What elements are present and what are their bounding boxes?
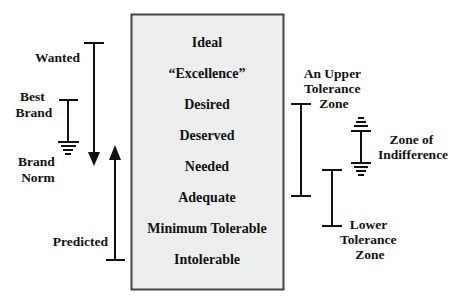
ground-symbol-icon: [58, 142, 79, 154]
down-arrow-icon: [88, 152, 100, 166]
wanted-label: Wanted: [35, 50, 81, 65]
up-arrow-icon: [109, 145, 121, 160]
predicted-label: Predicted: [53, 234, 109, 249]
level-needed: Needed: [185, 159, 230, 174]
indifference-marker: [351, 118, 371, 175]
best-brand-label: Best Brand: [16, 89, 53, 120]
brand-norm-label: Brand Norm: [18, 154, 58, 185]
upper-tolerance-marker: [291, 104, 311, 196]
inverted-ground-symbol-icon: [351, 118, 371, 131]
level-minimum-tolerable: Minimum Tolerable: [147, 221, 266, 236]
level-excellence: “Excellence”: [169, 66, 246, 81]
wanted-marker: [84, 43, 104, 166]
upper-tolerance-label: An Upper Tolerance Zone: [304, 66, 365, 111]
level-desired: Desired: [184, 97, 230, 112]
lower-tolerance-marker: [322, 170, 342, 226]
ground-symbol-icon: [351, 163, 371, 175]
predicted-marker: [106, 145, 125, 260]
level-ideal: Ideal: [192, 35, 222, 50]
level-adequate: Adequate: [178, 190, 236, 205]
level-deserved: Deserved: [179, 128, 234, 143]
lower-tolerance-label: Lower Tolerance Zone: [340, 217, 400, 262]
expectation-levels-box: [132, 15, 284, 290]
expectation-levels-diagram: Ideal “Excellence” Desired Deserved Need…: [0, 0, 463, 306]
level-intolerable: Intolerable: [174, 252, 240, 267]
best-brand-marker: [58, 100, 79, 154]
indifference-label: Zone of Indifference: [378, 132, 448, 162]
